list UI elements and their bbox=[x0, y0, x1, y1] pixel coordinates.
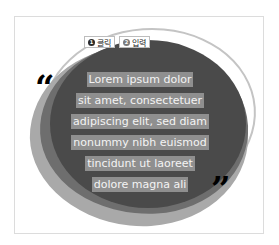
step-label: 입력 bbox=[132, 37, 146, 48]
step-label: 클릭 bbox=[97, 37, 111, 48]
quote-text-block[interactable]: Lorem ipsum dolor sit amet, consectetuer… bbox=[60, 68, 220, 194]
quote-line: Lorem ipsum dolor bbox=[87, 72, 194, 87]
quote-line: adipiscing elit, sed diam bbox=[71, 114, 209, 129]
quote-line: dolore magna ali bbox=[92, 177, 189, 192]
step-badges: 1 클릭 2 입력 bbox=[84, 36, 150, 48]
step-number-icon: 2 bbox=[123, 39, 130, 46]
step-badge-input[interactable]: 2 입력 bbox=[119, 36, 150, 48]
quote-line: nonummy nibh euismod bbox=[71, 135, 209, 150]
quote-line: tincidunt ut laoreet bbox=[85, 156, 195, 171]
step-badge-click[interactable]: 1 클릭 bbox=[84, 36, 115, 48]
quote-line: sit amet, consectetuer bbox=[76, 93, 204, 108]
open-quote-icon: “ bbox=[35, 70, 55, 104]
step-number-icon: 1 bbox=[88, 39, 95, 46]
